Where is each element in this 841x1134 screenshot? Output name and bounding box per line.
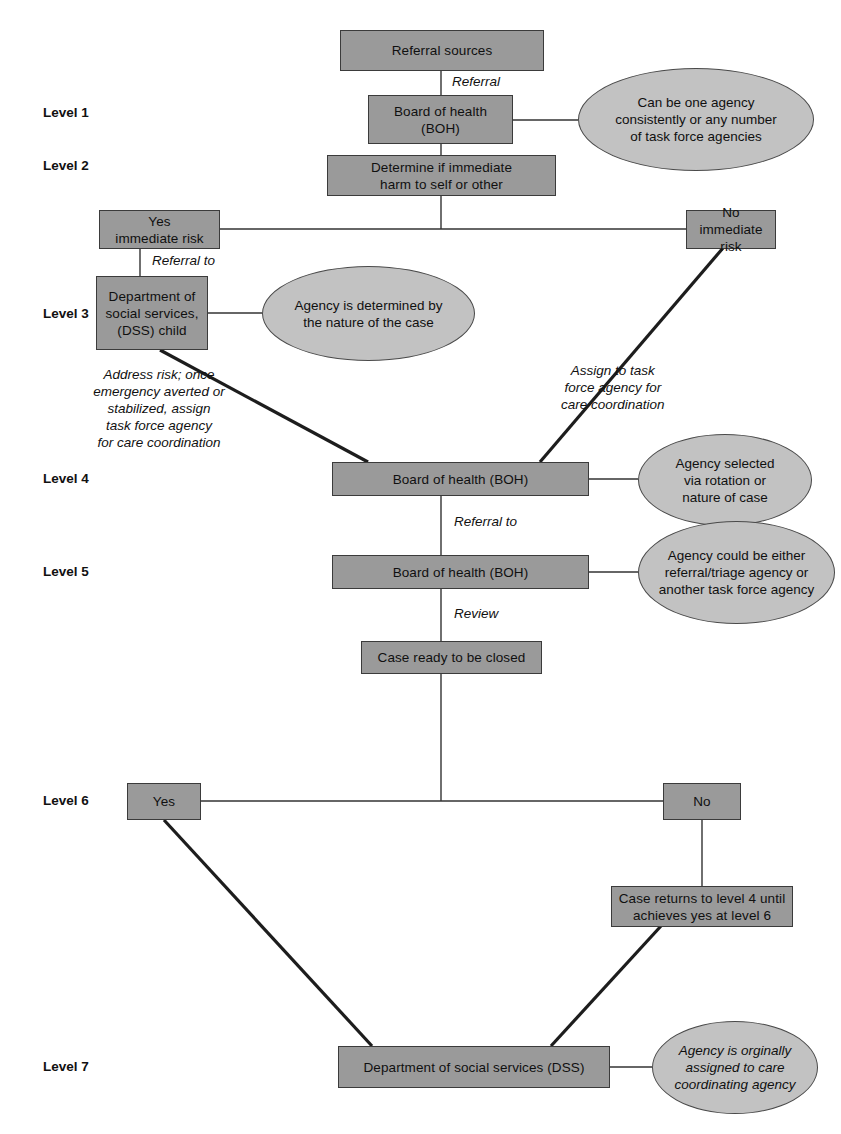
- edge-label-address-risk: Address risk; once emergency averted or …: [64, 366, 254, 451]
- node-yes-level-6[interactable]: Yes: [127, 783, 201, 820]
- node-board-of-health-level-4-label: Board of health (BOH): [389, 471, 533, 488]
- node-no-immediate-risk-label: No immediate risk: [687, 204, 775, 255]
- level-label-7: Level 7: [43, 1059, 89, 1074]
- node-board-of-health-level-4[interactable]: Board of health (BOH): [332, 462, 589, 496]
- node-determine-immediate-harm[interactable]: Determine if immediate harm to self or o…: [327, 155, 556, 196]
- node-case-returns-to-level-4-label: Case returns to level 4 until achieves y…: [615, 890, 789, 924]
- level-label-2: Level 2: [43, 158, 89, 173]
- note-agency-selected-rotation: Agency selected via rotation or nature o…: [638, 434, 812, 526]
- level-label-4: Level 4: [43, 471, 89, 486]
- edge-label-referral: Referral: [452, 73, 500, 90]
- edge-label-review: Review: [454, 605, 498, 622]
- node-yes-level-6-label: Yes: [149, 793, 179, 810]
- level-label-5: Level 5: [43, 564, 89, 579]
- level-label-3: Level 3: [43, 306, 89, 321]
- note-agency-could-be-either-text: Agency could be either referral/triage a…: [649, 547, 824, 598]
- note-agency-originally-assigned: Agency is orginally assigned to care coo…: [652, 1021, 818, 1114]
- note-nature-of-case-text: Agency is determined by the nature of th…: [285, 297, 453, 331]
- node-determine-immediate-harm-label: Determine if immediate harm to self or o…: [367, 159, 516, 193]
- node-yes-immediate-risk-label: Yes immediate risk: [111, 213, 207, 247]
- node-board-of-health-level-5[interactable]: Board of health (BOH): [332, 555, 589, 589]
- edge-yes6-to-dss7-diagonal: [164, 820, 372, 1046]
- level-label-1: Level 1: [43, 105, 89, 120]
- node-board-of-health-level-1-label: Board of health (BOH): [390, 103, 491, 137]
- edge-case-returns-to-dss7-diagonal: [551, 926, 661, 1046]
- note-agency-could-be-either: Agency could be either referral/triage a…: [638, 521, 835, 624]
- level-label-6: Level 6: [43, 793, 89, 808]
- node-board-of-health-level-5-label: Board of health (BOH): [389, 564, 533, 581]
- node-dss-level-7-label: Department of social services (DSS): [359, 1059, 588, 1076]
- node-case-ready-to-be-closed[interactable]: Case ready to be closed: [361, 641, 542, 674]
- edge-no-risk-to-boh4-diagonal: [540, 248, 723, 462]
- edge-label-assign-task-force: Assign to task force agency for care coo…: [561, 362, 665, 413]
- node-dss-child[interactable]: Department of social services, (DSS) chi…: [96, 276, 208, 350]
- note-can-be-one-agency-text: Can be one agency consistently or any nu…: [605, 94, 786, 145]
- node-no-level-6[interactable]: No: [663, 783, 741, 820]
- node-case-returns-to-level-4[interactable]: Case returns to level 4 until achieves y…: [611, 886, 793, 927]
- node-board-of-health-level-1[interactable]: Board of health (BOH): [368, 95, 513, 144]
- node-referral-sources-label: Referral sources: [388, 42, 497, 59]
- note-agency-originally-assigned-text: Agency is orginally assigned to care coo…: [665, 1042, 806, 1093]
- flowchart-canvas: Level 1 Level 2 Level 3 Level 4 Level 5 …: [0, 0, 841, 1134]
- node-dss-child-label: Department of social services, (DSS) chi…: [101, 288, 202, 339]
- node-dss-level-7[interactable]: Department of social services (DSS): [338, 1046, 610, 1088]
- node-referral-sources[interactable]: Referral sources: [340, 30, 544, 71]
- note-can-be-one-agency: Can be one agency consistently or any nu…: [578, 68, 814, 171]
- node-case-ready-to-be-closed-label: Case ready to be closed: [374, 649, 530, 666]
- edge-label-referral-to-level-5: Referral to: [454, 513, 517, 530]
- edge-label-referral-to-level-3: Referral to: [152, 252, 215, 269]
- note-agency-selected-rotation-text: Agency selected via rotation or nature o…: [665, 455, 784, 506]
- node-no-immediate-risk[interactable]: No immediate risk: [686, 210, 776, 249]
- node-no-level-6-label: No: [689, 793, 714, 810]
- node-yes-immediate-risk[interactable]: Yes immediate risk: [99, 210, 220, 249]
- note-nature-of-case: Agency is determined by the nature of th…: [262, 266, 475, 361]
